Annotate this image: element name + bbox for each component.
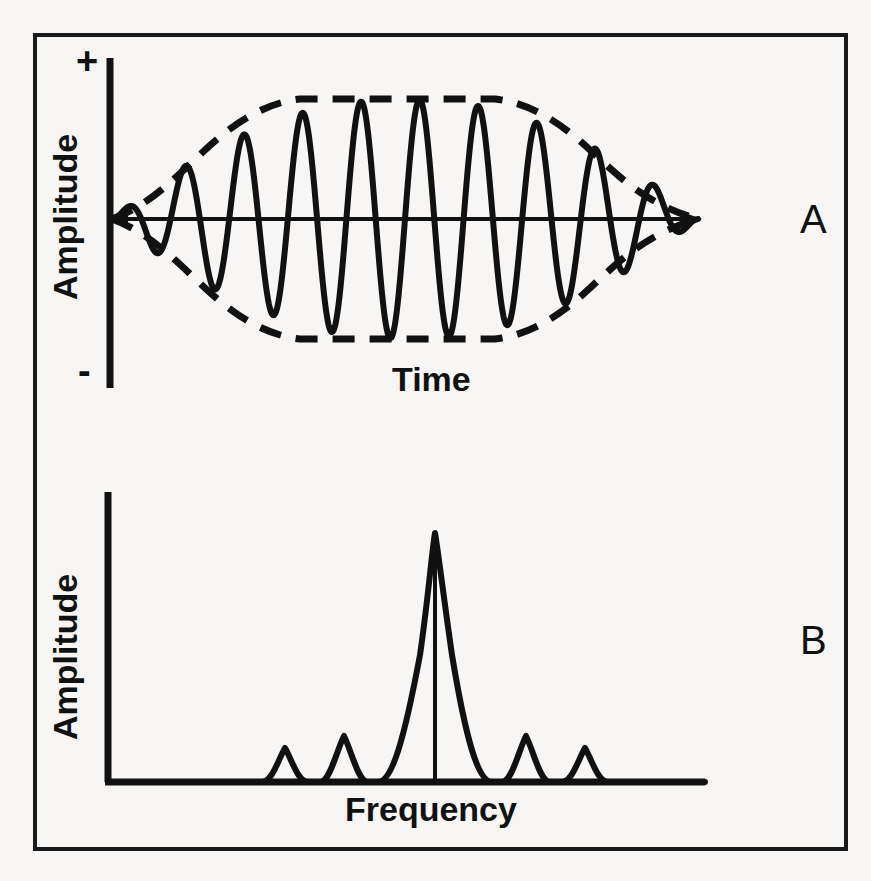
panel-b: Amplitude Frequency B bbox=[0, 440, 871, 881]
figure-root: Amplitude Time + - A Amplitude Frequency… bbox=[0, 0, 871, 881]
panel-b-spectrum-curve bbox=[108, 533, 705, 782]
panel-a: Amplitude Time + - A bbox=[0, 0, 871, 440]
panel-a-negative-mark: - bbox=[78, 352, 91, 390]
panel-a-x-axis-label: Time bbox=[392, 362, 471, 396]
panel-b-x-axis-label: Frequency bbox=[345, 792, 517, 826]
panel-a-positive-mark: + bbox=[76, 42, 98, 80]
panel-a-carrier-wave bbox=[112, 100, 698, 338]
panel-b-y-axis-label: Amplitude bbox=[48, 574, 82, 740]
panel-a-letter: A bbox=[800, 199, 827, 239]
panel-b-letter: B bbox=[800, 620, 827, 660]
panel-a-y-axis-label: Amplitude bbox=[48, 134, 82, 300]
